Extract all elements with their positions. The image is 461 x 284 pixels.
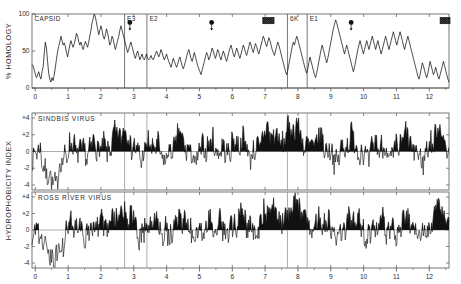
- hydro-ytick-label: +2: [22, 131, 30, 138]
- homology-xtick-label: 5: [198, 93, 202, 100]
- homology-xtick-label: 2: [99, 93, 103, 100]
- hydro-xtick-label: 5: [198, 273, 202, 280]
- hydro-xtick-label: 7: [263, 273, 267, 280]
- alphavirus-profile-figure: 050100CAPSIDE3E26KE1% HOMOLOGY0123456789…: [0, 0, 461, 284]
- hydro-xtick-label: 9: [329, 273, 333, 280]
- homology-axis-label: % HOMOLOGY: [4, 23, 13, 79]
- homology-panel: 050100CAPSIDE3E26KE1% HOMOLOGY0123456789…: [4, 10, 450, 100]
- hydro-xtick-label: 1: [66, 273, 70, 280]
- hydro-ytick-label: 0: [26, 148, 30, 155]
- hydro-ytick-label: +4: [22, 114, 30, 121]
- hydro-xtick-label: 11: [393, 273, 400, 280]
- hydro-xtick-label: 2: [99, 273, 103, 280]
- homology-xtick-label: 8: [296, 93, 300, 100]
- glycosylation-site-marker: [209, 20, 214, 25]
- hydro-xtick-label: 10: [360, 273, 368, 280]
- glycosylation-site-marker: [349, 20, 354, 25]
- homology-trace: [32, 14, 449, 82]
- transmembrane-domain-box: [263, 18, 274, 24]
- hydro-trace: [32, 116, 449, 190]
- hydro-xtick-label: 6: [230, 273, 234, 280]
- hydro-xtick-label: 0: [33, 273, 37, 280]
- hydro-ytick-label: +4: [22, 193, 30, 200]
- homology-xtick-label: 4: [165, 93, 169, 100]
- transmembrane-domain-box: [440, 18, 450, 24]
- region-label: E1: [310, 15, 319, 22]
- region-label: E3: [127, 15, 136, 22]
- region-label: E2: [149, 15, 158, 22]
- glycosylation-site-arrow: [210, 28, 213, 30]
- homology-ytick-label: 100: [18, 10, 29, 17]
- homology-ytick-label: 0: [26, 84, 30, 91]
- homology-xtick-label: 3: [132, 93, 136, 100]
- hydro-xtick-label: 8: [296, 273, 300, 280]
- homology-ytick-label: 50: [22, 47, 30, 54]
- ross-river-hydrophobicity-panel: +4+20-2-4ROSS RIVER VIRUS: [22, 192, 449, 268]
- hydrophobicity-axis-label: HYDROPHOBICITY INDEX: [4, 141, 13, 241]
- hydro-ytick-label: 0: [26, 226, 30, 233]
- hydro-ytick-label: -2: [24, 164, 30, 171]
- hydro-xaxis: 0123456789101112: [33, 268, 445, 280]
- glycosylation-site-arrow: [128, 28, 131, 30]
- homology-plot-frame: [32, 14, 449, 88]
- homology-xtick-label: 6: [230, 93, 234, 100]
- hydro-xtick-label: 3: [132, 273, 136, 280]
- sindbis-panel-title: SINDBIS VIRUS: [38, 115, 95, 122]
- homology-xtick-label: 11: [393, 93, 400, 100]
- ross-river-panel-title: ROSS RIVER VIRUS: [38, 194, 112, 201]
- hydro-xtick-label: 12: [426, 273, 434, 280]
- sindbis-hydrophobicity-panel: +4+20-2-4SINDBIS VIRUS: [22, 113, 449, 190]
- hydro-ytick-label: -4: [24, 259, 30, 266]
- region-label: 6K: [290, 15, 299, 22]
- hydrophobicity-axis-label-group: HYDROPHOBICITY INDEX: [4, 141, 13, 241]
- homology-xtick-label: 12: [426, 93, 434, 100]
- hydro-xtick-label: 4: [165, 273, 169, 280]
- hydro-ytick-label: -4: [24, 181, 30, 188]
- glycosylation-site-arrow: [350, 28, 353, 30]
- homology-xtick-label: 7: [263, 93, 267, 100]
- figure-container: 050100CAPSIDE3E26KE1% HOMOLOGY0123456789…: [0, 0, 461, 284]
- hydro-ytick-label: +2: [22, 210, 30, 217]
- hydro-ytick-label: -2: [24, 243, 30, 250]
- homology-xtick-label: 1: [66, 93, 70, 100]
- homology-xtick-label: 10: [360, 93, 368, 100]
- glycosylation-site-marker: [127, 20, 132, 25]
- homology-xtick-label: 0: [33, 93, 37, 100]
- homology-xtick-label: 9: [329, 93, 333, 100]
- region-label: CAPSID: [35, 15, 61, 22]
